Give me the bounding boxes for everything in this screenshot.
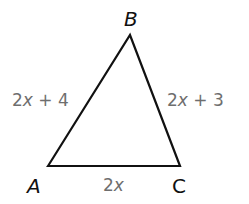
side-bc-constant: + 3 bbox=[188, 90, 224, 110]
side-ac-coefficient: 2 bbox=[103, 175, 114, 195]
vertex-label-c: C bbox=[172, 176, 186, 196]
vertex-label-a: A bbox=[27, 176, 41, 196]
vertex-label-b: B bbox=[124, 9, 138, 29]
side-label-bc: 2x + 3 bbox=[167, 92, 224, 109]
triangle-diagram: B A C 2x + 4 2x + 3 2x bbox=[0, 0, 249, 204]
side-bc-variable: x bbox=[178, 90, 188, 110]
side-bc-coefficient: 2 bbox=[167, 90, 178, 110]
side-ab-coefficient: 2 bbox=[12, 90, 23, 110]
side-label-ac: 2x bbox=[103, 177, 124, 194]
side-label-ab: 2x + 4 bbox=[12, 92, 69, 109]
side-ab-constant: + 4 bbox=[33, 90, 69, 110]
side-ab-variable: x bbox=[23, 90, 33, 110]
side-ac-variable: x bbox=[114, 175, 124, 195]
